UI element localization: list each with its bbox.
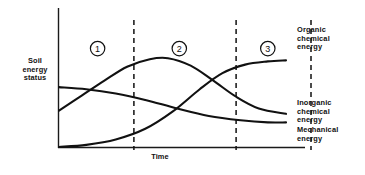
- phase-number-2: 2: [177, 44, 182, 54]
- series-label-inorganic: Inorganic chemical energy: [297, 99, 332, 125]
- axes: [58, 8, 305, 148]
- phase-number-1: 1: [95, 44, 100, 54]
- phase-number-3: 3: [265, 44, 270, 54]
- curve-organic: [59, 60, 286, 147]
- curve-inorganic: [59, 58, 286, 114]
- soil-energy-diagram: 123 Soil energy status Time Organic chem…: [0, 0, 365, 175]
- y-axis-label: Soil energy status: [12, 57, 58, 83]
- energy-curves: [59, 58, 286, 147]
- series-label-organic: Organic chemical energy: [297, 26, 330, 52]
- phase-markers: 123: [90, 41, 275, 55]
- phase-dividers: [134, 20, 311, 150]
- x-axis-label: Time: [130, 153, 190, 162]
- series-label-mechanical: Mechanical energy: [297, 126, 338, 143]
